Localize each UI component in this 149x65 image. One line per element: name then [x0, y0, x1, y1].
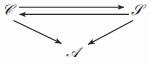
- edge-c-to-a: [14, 21, 62, 44]
- commutative-diagram-figure: 𝒞 𝒮 𝒜: [0, 0, 149, 65]
- edge-s-to-a: [88, 21, 133, 45]
- node-label-a: 𝒜: [66, 45, 79, 59]
- node-label-s: 𝒮: [131, 3, 143, 18]
- node-label-c: 𝒞: [2, 3, 13, 18]
